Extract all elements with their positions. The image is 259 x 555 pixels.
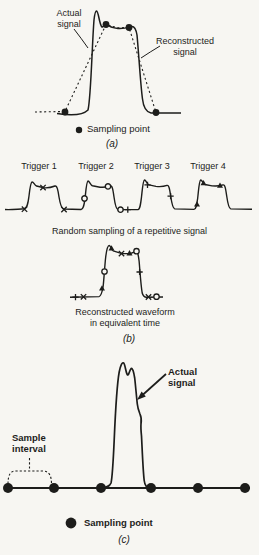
panel-b-letter: (b)	[104, 334, 154, 345]
trigger-pulse-train-curve	[5, 180, 252, 210]
actual-signal-label-a: Actual signal	[46, 8, 92, 29]
panel-a-letter: (a)	[92, 139, 132, 150]
reconstructed-waveform-caption: Reconstructed waveform in equivalent tim…	[40, 307, 210, 328]
trigger3-sample-markers	[125, 182, 174, 213]
panel-b-reconstructed-waveform	[70, 245, 163, 300]
trigger2-label: Trigger 2	[69, 161, 123, 172]
reconstructed-signal-label: Reconstructed signal	[150, 36, 220, 57]
panel-a-waveforms	[35, 11, 181, 133]
reconstructed-sample-markers	[72, 245, 159, 300]
sample-interval-bracket	[8, 458, 52, 485]
figure-sampling-diagram: Actual signal Reconstructed signal Sampl…	[0, 0, 259, 555]
random-sampling-caption: Random sampling of a repetitive signal	[0, 226, 259, 237]
actual-signal-leader-line	[74, 29, 88, 48]
panel-c-actual-signal-curve	[103, 363, 150, 488]
panel-b-trigger-waveform	[5, 180, 252, 213]
panel-a-sampling-points	[62, 21, 160, 116]
panel-a-legend-label: Sampling point	[87, 124, 150, 135]
equivalent-time-waveform-curve	[70, 246, 163, 298]
panel-c-legend-dot-icon	[66, 518, 77, 529]
actual-signal-label-c: Actual signal	[168, 366, 197, 388]
sample-interval-label: Sample interval	[12, 432, 46, 454]
trigger1-label: Trigger 1	[12, 161, 66, 172]
panel-c-letter: (c)	[99, 535, 149, 546]
panel-a-legend-dot-icon	[76, 127, 82, 133]
trigger3-label: Trigger 3	[125, 161, 179, 172]
waveform-graphics	[0, 0, 259, 555]
trigger4-label: Trigger 4	[181, 161, 235, 172]
panel-c-legend-label: Sampling point	[84, 517, 153, 528]
actual-signal-arrow-line	[142, 374, 166, 396]
